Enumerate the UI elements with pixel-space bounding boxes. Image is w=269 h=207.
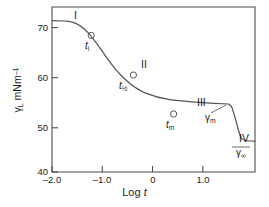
region-label-I: I [74,10,77,21]
plot-border [52,7,255,172]
t-half-subscript: ½ [122,85,128,92]
y-axis-title: γL mNm–1 [11,35,23,145]
gamma-m-subscript: m [210,117,216,124]
x-axis-title-variable: t [144,186,147,198]
y-tick-label-70: 70 [18,23,48,33]
y-axis-units: mNm [11,75,23,103]
x-tick-label-0: 0 [137,175,169,185]
y-axis-ticks [52,28,58,172]
x-tick-label-neg2: –2.0 [36,175,68,185]
x-axis-ticks [52,166,203,172]
region-label-IV: IV [239,133,249,144]
t-i-subscript: i [88,45,90,52]
region-label-II: II [141,59,147,70]
data-curve [52,21,255,142]
gamma-m-leader [211,105,226,113]
gamma-infinity-subscript: ∞ [241,152,246,159]
marker-t-m [171,111,177,117]
region-label-III: III [197,97,206,108]
gamma-infinity-label: γ∞ [236,148,246,158]
point-label-t-m: tm [166,120,174,130]
figure-dynamic-surface-tension-plot: 70 60 50 40 –2.0 –1.0 0 1.0 Log t γL mNm… [0,0,269,207]
y-axis-gamma-subscript: L [17,103,25,107]
t-m-subscript: m [169,124,175,131]
y-axis-units-exponent: –1 [12,67,20,75]
x-axis-title-text: Log [122,186,140,198]
point-label-t-i: ti [85,41,89,51]
gamma-m-label: γm [205,113,216,123]
x-axis-title: Log t [0,186,269,198]
marker-t-half [130,72,136,78]
axes-frame [52,7,255,172]
data-markers [88,32,177,117]
x-tick-label-neg1: –1.0 [86,175,118,185]
point-label-t-half: t½ [119,81,127,91]
y-axis-gamma-symbol: γ [11,107,23,112]
x-tick-label-1: 1.0 [187,175,219,185]
data-curve-group [52,21,255,142]
